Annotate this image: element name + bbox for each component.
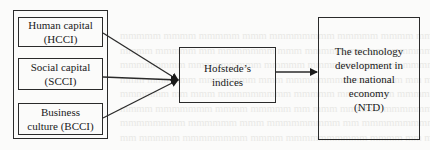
edge-bcci-to-hofstede	[103, 80, 178, 118]
edge-scci-to-hofstede	[103, 77, 178, 80]
edge-hcci-to-hofstede	[103, 33, 178, 80]
edge-layer	[0, 0, 430, 150]
